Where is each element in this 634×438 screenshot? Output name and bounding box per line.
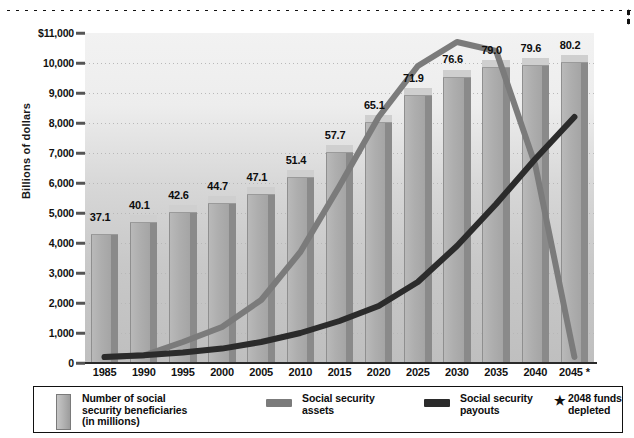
legend-item: ★2048 funds depleted bbox=[554, 393, 622, 416]
line-payouts bbox=[105, 117, 575, 357]
plot-area: 37.140.142.644.747.151.457.765.171.976.6… bbox=[85, 33, 594, 363]
x-axis-tick-label: 2020 bbox=[367, 366, 391, 378]
y-axis-tick-mark bbox=[76, 362, 85, 365]
bar-value-label: 80.2 bbox=[559, 39, 582, 51]
y-axis-tick-label: 6,000 bbox=[10, 177, 74, 189]
x-axis-tick-label: 2010 bbox=[289, 366, 313, 378]
legend-item-label: Social security payouts bbox=[460, 393, 533, 416]
legend-bar-swatch bbox=[56, 394, 71, 430]
y-axis-tick-mark bbox=[76, 62, 85, 65]
legend-item-label: 2048 funds depleted bbox=[568, 393, 622, 416]
y-axis-tick-label: 4,000 bbox=[10, 237, 74, 249]
bar-value-label: 76.6 bbox=[441, 53, 464, 65]
y-axis-tick-label: 3,000 bbox=[10, 267, 74, 279]
x-axis-tick-label: 1990 bbox=[132, 366, 156, 378]
x-axis-tick-label: 2045 * bbox=[559, 366, 590, 378]
top-dotted-rule bbox=[4, 8, 632, 13]
y-axis-tick-mark bbox=[76, 272, 85, 275]
y-axis-tick-mark bbox=[76, 182, 85, 185]
bar-value-label: 51.4 bbox=[285, 154, 308, 166]
y-axis-tick-label: 0 bbox=[10, 357, 74, 369]
bar-value-label: 65.1 bbox=[363, 99, 386, 111]
legend-item-label: Social security assets bbox=[302, 393, 375, 416]
legend-item: Social security assets bbox=[266, 393, 375, 416]
right-dotted-rule bbox=[626, 8, 632, 26]
y-axis-tick-mark bbox=[76, 122, 85, 125]
y-axis-tick-mark bbox=[76, 242, 85, 245]
bar-value-label: 44.7 bbox=[206, 180, 229, 192]
x-axis-tick-label: 2025 bbox=[406, 366, 430, 378]
x-axis-baseline bbox=[85, 362, 597, 364]
legend-star-icon: ★ bbox=[554, 393, 566, 408]
x-axis-tick-label: 2030 bbox=[445, 366, 469, 378]
x-axis-tick-label: 2040 bbox=[523, 366, 547, 378]
chart-root: Billions of dollars $11,00010,0009,0008,… bbox=[0, 0, 634, 438]
x-axis-tick-label: 1985 bbox=[93, 366, 117, 378]
y-axis-tick-mark bbox=[76, 32, 85, 35]
bar-value-label: 79.6 bbox=[520, 42, 543, 54]
x-axis-tick-label: 2000 bbox=[210, 366, 234, 378]
y-axis-tick-label: 9,000 bbox=[10, 87, 74, 99]
legend-item: Number of social security beneficiaries … bbox=[56, 393, 187, 428]
y-axis-tick-mark bbox=[76, 152, 85, 155]
y-axis-tick-mark bbox=[76, 332, 85, 335]
bar-value-label: 79.0 bbox=[480, 44, 503, 56]
x-axis-tick-label: 2005 bbox=[249, 366, 273, 378]
bar-value-label: 47.1 bbox=[245, 171, 268, 183]
x-axis-tick-label: 2035 bbox=[484, 366, 508, 378]
y-axis-tick-mark bbox=[76, 212, 85, 215]
y-axis-tick-label: 7,000 bbox=[10, 147, 74, 159]
y-axis-tick-label: $11,000 bbox=[10, 27, 74, 39]
bar-value-label: 57.7 bbox=[324, 129, 347, 141]
x-axis-tick-label: 2015 bbox=[328, 366, 352, 378]
y-axis-tick-label: 8,000 bbox=[10, 117, 74, 129]
y-axis-tick-mark bbox=[76, 302, 85, 305]
x-axis-tick-label: 1995 bbox=[171, 366, 195, 378]
y-axis-tick-label: 10,000 bbox=[10, 57, 74, 69]
y-axis-ticks: $11,00010,0009,0008,0007,0006,0005,0004,… bbox=[0, 0, 74, 438]
y-axis-tick-label: 5,000 bbox=[10, 207, 74, 219]
legend-item: Social security payouts bbox=[424, 393, 533, 416]
y-axis-tick-label: 1,000 bbox=[10, 327, 74, 339]
bar-value-label: 71.9 bbox=[402, 72, 425, 84]
legend-payouts-swatch bbox=[424, 399, 450, 407]
bar-value-label: 40.1 bbox=[128, 199, 151, 211]
y-axis-tick-mark bbox=[76, 92, 85, 95]
legend-item-label: Number of social security beneficiaries … bbox=[82, 393, 187, 428]
y-axis-tick-label: 2,000 bbox=[10, 297, 74, 309]
chart-legend: Number of social security beneficiaries … bbox=[33, 386, 623, 433]
line-series bbox=[85, 33, 594, 363]
legend-assets-swatch bbox=[266, 399, 292, 407]
bar-value-label: 37.1 bbox=[89, 211, 112, 223]
bar-value-label: 42.6 bbox=[167, 189, 190, 201]
